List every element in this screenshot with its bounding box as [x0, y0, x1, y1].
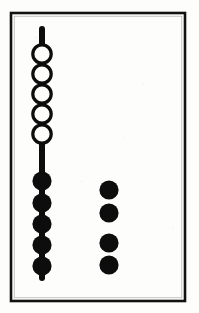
filled-bead — [32, 214, 51, 233]
free-filled-bead — [99, 233, 118, 252]
bead-rod-figure — [0, 0, 199, 313]
filled-bead — [32, 171, 51, 190]
filled-bead — [32, 193, 51, 212]
open-beads-group — [33, 45, 51, 143]
open-bead — [33, 45, 51, 63]
free-filled-bead — [99, 203, 118, 222]
filled-bead — [32, 235, 51, 254]
open-bead — [33, 65, 51, 83]
filled-bead — [32, 256, 51, 275]
figure-root: Bead rod diagram — [0, 0, 199, 313]
filled-beads-on-rod-group — [32, 171, 51, 275]
open-bead — [33, 125, 51, 143]
free-filled-bead — [99, 255, 118, 274]
open-bead — [33, 85, 51, 103]
open-bead — [33, 105, 51, 123]
free-filled-bead — [99, 180, 118, 199]
